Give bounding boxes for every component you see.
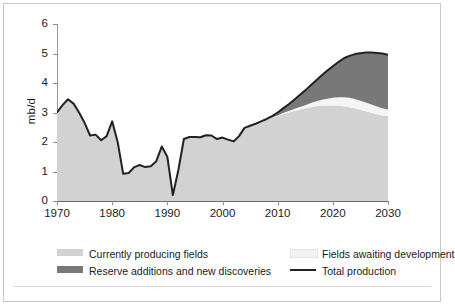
x-tick-mark-1980 (112, 201, 113, 205)
x-tick-label-2020: 2020 (309, 208, 357, 220)
y-tick-label-2: 2 (22, 136, 48, 148)
x-tick-label-2000: 2000 (199, 208, 247, 220)
x-tick-mark-2020 (333, 201, 334, 205)
y-tick-label-0: 0 (22, 195, 48, 207)
plot-area (57, 24, 388, 201)
x-tick-label-1970: 1970 (33, 208, 81, 220)
x-tick-label-2010: 2010 (254, 208, 302, 220)
legend-label-0: Currently producing fields (89, 249, 208, 260)
y-tick-label-6: 6 (22, 18, 48, 30)
x-tick-label-1990: 1990 (143, 208, 191, 220)
x-tick-mark-1970 (57, 201, 58, 205)
chart-legend: Currently producing fieldsFields awaitin… (0, 243, 446, 291)
legend-label-3: Total production (322, 266, 396, 277)
legend-swatch-2 (57, 266, 83, 273)
legend-divider (13, 286, 431, 287)
x-tick-label-2030: 2030 (364, 208, 412, 220)
x-tick-label-1980: 1980 (88, 208, 136, 220)
area-currently-producing-fields (57, 99, 388, 201)
y-tick-label-1: 1 (22, 166, 48, 178)
legend-swatch-0 (57, 249, 83, 256)
legend-swatch-3 (290, 269, 316, 271)
y-tick-label-4: 4 (22, 77, 48, 89)
chart-svg (57, 24, 388, 201)
legend-label-1: Fields awaiting development (322, 249, 455, 260)
x-tick-mark-1990 (167, 201, 168, 205)
legend-label-2: Reserve additions and new discoveries (89, 266, 271, 277)
x-tick-mark-2000 (223, 201, 224, 205)
x-tick-mark-2010 (278, 201, 279, 205)
x-tick-mark-2030 (388, 201, 389, 205)
y-tick-label-5: 5 (22, 48, 48, 60)
y-tick-label-3: 3 (22, 107, 48, 119)
legend-swatch-1 (290, 249, 318, 258)
